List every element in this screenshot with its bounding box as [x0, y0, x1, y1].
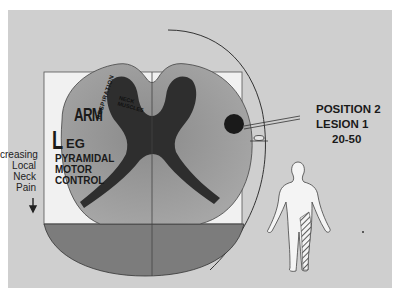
side-label-line-2: Local: [0, 160, 36, 171]
side-label: creasing Local Neck Pain: [0, 149, 36, 193]
pyramidal-motor-control-label: PYRAMIDAL MOTOR CONTROL: [55, 153, 114, 186]
side-label-line-1: creasing: [0, 149, 36, 160]
probe-line-2: [244, 119, 300, 129]
lesion-label: LESION 1: [316, 117, 381, 132]
leg-label-small: EG: [66, 136, 85, 151]
position-label: POSITION 2: [316, 102, 381, 117]
lesion-dot: [224, 114, 244, 134]
position-info: POSITION 2 LESION 1 20-50: [316, 102, 381, 147]
probe-line-1: [244, 116, 300, 126]
body-figure-icon: [267, 162, 330, 271]
lower-segment: [44, 224, 244, 276]
electrode-tip: [254, 136, 264, 141]
down-arrow-icon: [30, 198, 36, 212]
side-label-line-3: Neck: [0, 171, 36, 182]
side-label-line-4: Pain: [0, 182, 36, 193]
leg-label-big: L: [52, 125, 63, 156]
ratio-label: 20-50: [316, 132, 381, 147]
